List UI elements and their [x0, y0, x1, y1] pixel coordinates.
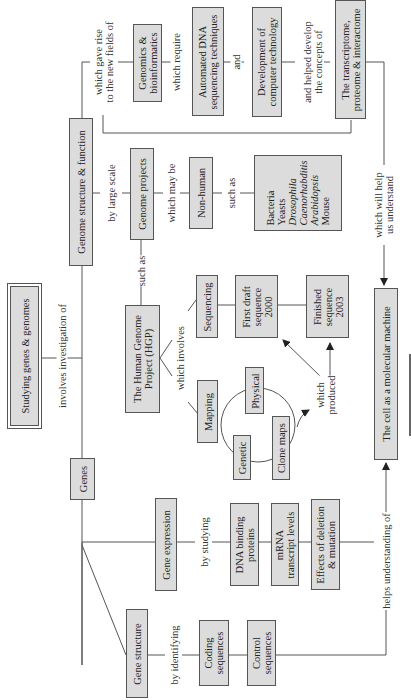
node-effects-deletion: Effects of deletion& mutation — [311, 499, 340, 590]
node-genome-structure-function: Genome structure & function — [69, 118, 93, 266]
node-non-human: Non-human — [189, 157, 213, 229]
node-first-draft: First draftsequence2000 — [235, 275, 278, 338]
node-cell-molecular-machine: The cell as a molecular machine — [374, 288, 398, 460]
node-computer-technology: Development ofcomputer technology — [252, 7, 282, 117]
node-organisms: Bacteria Yeasts Drosophila Caenorhabditi… — [254, 155, 342, 231]
root-label: Studying genes & genomes — [19, 298, 30, 413]
node-automated-dna: Automated DNAsequencing techniques — [192, 7, 224, 116]
node-coding-sequences: Codingsequences — [199, 620, 229, 686]
root-node-studying-genes: Studying genes & genomes — [7, 283, 42, 429]
node-transcriptome: The transcriptome,proteome & interactome — [335, 0, 366, 119]
node-clone-maps: Clone maps — [272, 416, 290, 480]
node-genome-projects: Genome projects — [130, 148, 154, 240]
node-mrna-transcript: mRNAtranscript levels — [271, 503, 299, 586]
node-physical: Physical — [245, 367, 264, 414]
node-gene-structure: Gene structure — [126, 609, 148, 698]
node-gene-expression: Gene expression — [155, 498, 177, 591]
node-genomics-bioinformatics: Genomics &bioinformatics — [133, 24, 162, 102]
node-finished-sequence: Finishedsequence2003 — [306, 275, 349, 338]
node-mapping: Mapping — [197, 380, 218, 443]
node-control-sequences: Controlsequences — [247, 620, 276, 686]
node-genetic: Genetic — [233, 435, 251, 480]
node-sequencing: Sequencing — [196, 275, 218, 338]
node-human-genome-project: The Human GenomeProject (HGP) — [125, 305, 160, 413]
node-genes: Genes — [70, 458, 95, 500]
node-dna-binding-proteins: DNA bindingproteins — [230, 503, 259, 586]
